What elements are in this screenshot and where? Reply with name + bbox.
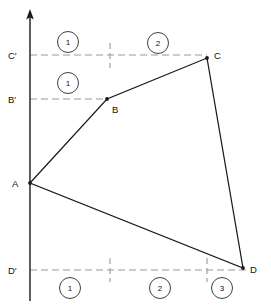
- vertex-label-d: D: [250, 264, 257, 275]
- zone-marker-label: 2: [158, 284, 163, 293]
- diagram-canvas: A B C D C′ B′ D′ 1 2 1: [0, 0, 271, 308]
- zone-marker-bottom-2: 2: [150, 278, 171, 299]
- vertex-marker-c: [205, 56, 209, 60]
- polygon-outline: [30, 58, 243, 268]
- vertical-axis: [26, 9, 34, 301]
- zone-marker-bottom-3: 3: [212, 278, 233, 299]
- axis-label-d-prime: D′: [8, 265, 17, 276]
- zone-marker-label: 1: [68, 284, 73, 293]
- axis-label-c-prime: C′: [8, 50, 17, 61]
- zone-marker-label: 1: [66, 38, 71, 47]
- zone-markers: 1 2 1 1 2 3: [58, 32, 233, 299]
- vertex-marker-a: [28, 181, 32, 185]
- polygon-projection-diagram: A B C D C′ B′ D′ 1 2 1: [0, 0, 271, 308]
- vertical-tick-marks: [110, 43, 207, 282]
- zone-marker-label: 2: [156, 39, 161, 48]
- axis-label-b-prime: B′: [8, 94, 16, 105]
- axis-projection-labels: C′ B′ D′: [8, 50, 17, 276]
- vertex-label-a: A: [12, 178, 19, 189]
- vertex-label-c: C: [214, 50, 221, 61]
- zone-marker-bottom-1: 1: [60, 278, 81, 299]
- zone-marker-top-2: 2: [148, 33, 169, 54]
- vertex-marker-b: [105, 97, 109, 101]
- zone-marker-label: 3: [220, 284, 225, 293]
- vertex-label-b: B: [112, 104, 118, 115]
- projection-dash-lines: [30, 55, 246, 270]
- zone-marker-top-1: 1: [58, 32, 79, 53]
- quadrilateral-abcd: [30, 58, 243, 268]
- zone-marker-label: 1: [66, 79, 71, 88]
- zone-marker-mid-1: 1: [58, 73, 79, 94]
- vertex-marker-d: [241, 266, 245, 270]
